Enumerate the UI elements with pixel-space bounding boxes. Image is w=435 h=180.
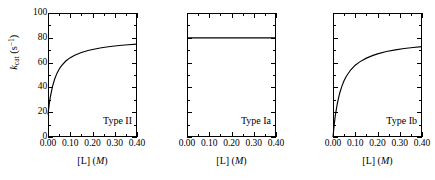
axis-tick-b-maj xyxy=(378,132,379,137)
axis-tick-t-maj xyxy=(422,13,423,18)
axis-tick-t-maj xyxy=(232,13,233,18)
x-axis-title-bracket: [L] ( xyxy=(77,155,96,166)
axis-tick-t-maj xyxy=(355,13,356,18)
axis-tick-r-min xyxy=(419,75,422,76)
axis-tick-t-maj xyxy=(276,13,277,18)
x-axis-title-bracket: [L] ( xyxy=(362,155,381,166)
axis-tick-l-maj xyxy=(48,63,53,64)
axis-tick-l-maj xyxy=(48,112,53,113)
y-tick-label: 40 xyxy=(21,83,47,93)
axis-tick-b-min xyxy=(344,134,345,137)
axis-tick-l-maj xyxy=(187,63,192,64)
axis-tick-t-min xyxy=(220,13,221,16)
axis-tick-l-maj xyxy=(333,38,338,39)
axis-tick-b-maj xyxy=(115,132,116,137)
axis-tick-r-maj xyxy=(417,38,422,39)
axis-tick-r-maj xyxy=(417,63,422,64)
axis-tick-r-maj xyxy=(132,87,137,88)
axis-tick-b-maj xyxy=(93,132,94,137)
axis-tick-r-maj xyxy=(417,13,422,14)
y-axis-title: kcat (s−1) xyxy=(8,12,21,92)
axis-tick-t-maj xyxy=(137,13,138,18)
axis-tick-l-maj xyxy=(187,87,192,88)
axis-tick-t-min xyxy=(198,13,199,16)
axis-tick-r-maj xyxy=(271,112,276,113)
axis-tick-r-maj xyxy=(132,38,137,39)
axis-tick-l-maj xyxy=(333,13,338,14)
axis-tick-r-min xyxy=(134,100,137,101)
axis-tick-r-min xyxy=(273,25,276,26)
axis-tick-l-min xyxy=(333,100,336,101)
axis-tick-r-maj xyxy=(132,112,137,113)
axis-tick-b-maj xyxy=(137,132,138,137)
x-axis-title: [L] (M) xyxy=(187,156,276,166)
axis-tick-t-maj xyxy=(70,13,71,18)
axis-tick-t-min xyxy=(265,13,266,16)
axis-tick-t-min xyxy=(81,13,82,16)
y-axis-title-k: k xyxy=(8,65,19,70)
axis-tick-b-maj xyxy=(276,132,277,137)
axis-tick-b-min xyxy=(366,134,367,137)
axis-tick-t-min xyxy=(366,13,367,16)
axis-tick-b-min xyxy=(59,134,60,137)
axis-tick-t-min xyxy=(243,13,244,16)
axis-tick-t-min xyxy=(389,13,390,16)
axis-tick-b-maj xyxy=(422,132,423,137)
axis-tick-t-maj xyxy=(254,13,255,18)
axis-tick-r-maj xyxy=(271,63,276,64)
panel-annotation-type-ii: Type II xyxy=(103,116,132,126)
axis-tick-r-maj xyxy=(132,63,137,64)
plot-panel-type-ia: Type Ia [L] (M) 0.000.100.200.300.40 xyxy=(187,13,276,137)
axis-tick-l-maj xyxy=(187,112,192,113)
axis-tick-l-maj xyxy=(333,112,338,113)
axis-tick-l-maj xyxy=(48,38,53,39)
axis-tick-r-min xyxy=(273,50,276,51)
axis-tick-t-maj xyxy=(93,13,94,18)
axis-tick-b-min xyxy=(104,134,105,137)
axis-tick-l-min xyxy=(48,75,51,76)
axis-tick-l-maj xyxy=(187,13,192,14)
axis-tick-l-maj xyxy=(333,63,338,64)
axis-tick-r-min xyxy=(419,100,422,101)
axis-tick-l-maj xyxy=(187,38,192,39)
axis-tick-r-min xyxy=(134,25,137,26)
curve-path xyxy=(48,44,137,115)
axis-tick-l-min xyxy=(48,50,51,51)
axis-tick-b-min xyxy=(265,134,266,137)
axis-tick-b-min xyxy=(389,134,390,137)
x-axis-title-close: ) xyxy=(243,155,246,166)
axis-tick-l-min xyxy=(333,50,336,51)
x-tick-label: 0.40 xyxy=(405,139,435,149)
y-tick-label: 20 xyxy=(21,107,47,117)
axis-tick-r-min xyxy=(134,75,137,76)
axis-tick-r-maj xyxy=(132,13,137,14)
x-tick-label: 0.40 xyxy=(259,139,293,149)
axis-tick-b-maj xyxy=(232,132,233,137)
axis-tick-t-min xyxy=(104,13,105,16)
x-axis-title-bracket: [L] ( xyxy=(216,155,235,166)
y-axis-title-unit-open: (s xyxy=(8,46,19,56)
y-tick-label: 100 xyxy=(21,8,47,18)
axis-tick-r-maj xyxy=(417,112,422,113)
axis-tick-r-min xyxy=(134,125,137,126)
axis-tick-t-maj xyxy=(378,13,379,18)
axis-tick-l-min xyxy=(187,100,190,101)
axis-tick-l-maj xyxy=(333,87,338,88)
plot-panel-type-ib: Type Ib [L] (M) 0.000.100.200.300.40 xyxy=(333,13,422,137)
axis-tick-b-min xyxy=(126,134,127,137)
axis-tick-r-min xyxy=(419,125,422,126)
axis-tick-r-maj xyxy=(417,87,422,88)
axis-tick-t-min xyxy=(126,13,127,16)
axis-tick-t-maj xyxy=(209,13,210,18)
panel-annotation-type-ib: Type Ib xyxy=(386,116,417,126)
axis-tick-l-min xyxy=(187,75,190,76)
axis-tick-l-min xyxy=(48,125,51,126)
axis-tick-b-min xyxy=(411,134,412,137)
axis-tick-r-maj xyxy=(271,87,276,88)
axis-tick-t-min xyxy=(344,13,345,16)
axis-tick-l-min xyxy=(333,25,336,26)
axis-tick-t-maj xyxy=(400,13,401,18)
axis-tick-r-min xyxy=(419,25,422,26)
axis-tick-b-maj xyxy=(209,132,210,137)
axis-tick-r-min xyxy=(273,125,276,126)
